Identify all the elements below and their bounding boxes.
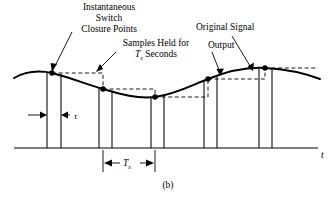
switch-closure-line-2: Switch: [66, 13, 152, 24]
label-ts: Ts: [123, 158, 131, 172]
sampling-figure: Instantaneous Switch Closure Points Samp…: [0, 0, 336, 204]
sample-point-3: [152, 94, 157, 99]
label-switch-closure-points: Instantaneous Switch Closure Points: [66, 2, 152, 35]
switch-closure-line-3: Closure Points: [66, 24, 152, 35]
tau-arrow-right: [61, 112, 68, 119]
sample-point-5: [262, 65, 267, 70]
samples-held-line-2: Ts Seconds: [110, 49, 202, 63]
figure-caption: (b): [148, 180, 188, 191]
switch-closure-line-1: Instantaneous: [66, 2, 152, 13]
leader-switch-closure: [51, 32, 73, 72]
arrowhead-samples-held: [96, 64, 103, 72]
original-signal-curve: [14, 68, 320, 98]
ts-arrow-right: [146, 160, 154, 167]
tau-arrow-left: [40, 112, 47, 119]
sample-point-4: [205, 76, 210, 81]
samples-held-seconds-text: Seconds: [143, 49, 177, 59]
leader-original-signal: [232, 36, 254, 71]
sample-point-2: [100, 86, 105, 91]
label-output: Output: [208, 40, 234, 51]
figure-canvas: [0, 0, 336, 204]
leader-output: [212, 52, 224, 76]
sample-pulses: [47, 68, 272, 148]
samples-held-line-1: Samples Held for: [110, 38, 202, 49]
hold-steps: [52, 68, 318, 97]
label-tau: τ: [74, 111, 77, 122]
label-original-signal: Original Signal: [196, 22, 254, 33]
ts-arrow-left: [104, 160, 112, 167]
label-time-axis: t: [321, 150, 324, 161]
ts-subscript: s: [128, 163, 131, 170]
label-samples-held: Samples Held for Ts Seconds: [110, 38, 202, 63]
